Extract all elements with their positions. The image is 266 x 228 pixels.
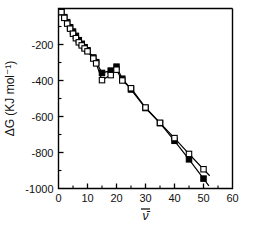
data-point-open (172, 135, 177, 140)
data-point-open (157, 120, 162, 125)
y-tick-label: -800 (31, 147, 53, 159)
x-tick-label: 40 (168, 192, 180, 204)
data-point-filled (186, 157, 191, 162)
x-tick-label: 30 (139, 192, 151, 204)
data-point-open (108, 72, 113, 77)
y-tick-label: -1000 (25, 183, 53, 195)
x-tick-label: 20 (110, 192, 122, 204)
y-tick-label: -400 (31, 75, 53, 87)
x-tick-label: 0 (55, 192, 61, 204)
delta-g-vs-nu-bar-chart: 0102030405060-1000-800-600-400-200ν̄ΔG (… (0, 0, 266, 228)
data-point-open (128, 86, 133, 91)
series-open-squares (59, 9, 210, 175)
data-point-open (114, 67, 119, 72)
data-point-open (186, 151, 191, 156)
series-filled-squares (59, 9, 209, 185)
data-point-open (143, 105, 148, 110)
data-point-open (85, 49, 90, 54)
chart-figure: 0102030405060-1000-800-600-400-200ν̄ΔG (… (0, 0, 266, 228)
data-point-open (201, 167, 206, 172)
data-point-open (99, 77, 104, 82)
data-point-open (59, 9, 64, 14)
data-point-open (120, 78, 125, 83)
data-point-open (94, 61, 99, 66)
y-axis-label: ΔG (KJ mol⁻¹) (3, 61, 17, 137)
x-tick-label: 60 (226, 192, 238, 204)
data-point-open (62, 15, 67, 20)
data-point-filled (201, 176, 206, 181)
y-tick-label: -200 (31, 39, 53, 51)
plot-frame (59, 9, 233, 189)
x-tick-label: 50 (197, 192, 209, 204)
x-tick-label: 10 (81, 192, 93, 204)
x-axis-label: ν̄ (143, 209, 151, 223)
y-tick-label: -600 (31, 111, 53, 123)
